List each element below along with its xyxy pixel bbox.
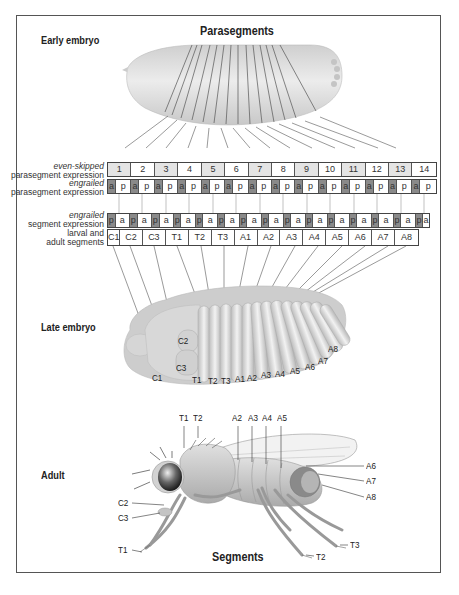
engrailed-segment-cell: p [372,214,380,227]
segment-cell: C1 [108,230,120,245]
engrailed-segment-cell: a [181,214,195,227]
parasegment-cell: 9 [295,163,318,176]
late-embryo-label-a2: A2 [247,373,257,383]
parasegment-cell: 8 [272,163,295,176]
segment-cell: T3 [212,230,235,245]
engrailed-segment-cell: p [218,214,226,227]
parasegment-cell: 12 [366,163,389,176]
engrailed-segment-cell: a [423,214,429,227]
adult-label-bottom-t2: T2 [316,552,325,562]
adult-label-top-a5: A5 [277,413,287,423]
engrailed-parasegment-cell: a [108,180,116,193]
en-segment-row-label: engrailedsegment expression [28,211,104,229]
engrailed-parasegment-cell: p [420,180,435,193]
late-embryo-label-t3: T3 [221,376,230,386]
diagram-artwork [0,0,459,595]
late-embryo-label-a3: A3 [261,370,271,380]
engrailed-segment-cell: a [291,214,305,227]
adult-label-bottom-t3: T3 [350,540,359,550]
engrailed-parasegment-cell: p [374,180,389,193]
late-embryo-label-a1: A1 [235,374,245,384]
engrailed-parasegment-cell: a [178,180,186,193]
engrailed-segment-cell: p [394,214,402,227]
engrailed-parasegment-cell: a [131,180,139,193]
late-embryo-label-t2: T2 [208,376,217,386]
engrailed-segment-row: papapapapapapapapapapapapapapa [107,213,430,228]
adult-label-right-a7: A7 [366,476,376,486]
engrailed-parasegment-cell: p [257,180,272,193]
parasegment-cell: 1 [108,163,131,176]
segment-cell: T2 [189,230,212,245]
engrailed-parasegment-row: apapapapapapapapapapapapapap [107,179,437,194]
late-embryo-label-a7: A7 [318,356,328,366]
engrailed-segment-cell: a [203,214,217,227]
parasegment-cell: 7 [249,163,272,176]
adult-label-top-a4: A4 [262,413,272,423]
parasegment-cell: 10 [319,163,342,176]
segment-cell: T1 [166,230,189,245]
parasegment-cell: 4 [178,163,201,176]
engrailed-segment-cell: p [196,214,204,227]
engrailed-segment-cell: a [247,214,261,227]
engrailed-parasegment-cell: a [202,180,210,193]
engrailed-parasegment-cell: a [366,180,374,193]
engrailed-parasegment-cell: a [155,180,163,193]
engrailed-parasegment-cell: p [210,180,225,193]
engrailed-segment-cell: p [108,214,116,227]
engrailed-segment-cell: a [379,214,393,227]
engrailed-segment-cell: p [350,214,358,227]
engrailed-segment-cell: p [284,214,292,227]
late-embryo-label-c2: C2 [178,336,188,346]
late-embryo-label-a4: A4 [275,369,285,379]
engrailed-parasegment-cell: a [295,180,303,193]
engrailed-segment-cell: p [152,214,160,227]
parasegment-cell: 13 [389,163,412,176]
register-lines [119,194,424,213]
engrailed-segment-cell: p [306,214,314,227]
engrailed-segment-cell: a [401,214,415,227]
adult-label-left-t1: T1 [118,545,127,555]
segment-cell: A4 [303,230,326,245]
engrailed-segment-cell: p [416,214,424,227]
segment-cell: A1 [235,230,258,245]
adult-label-right-a8: A8 [366,492,376,502]
segment-cell: C3 [143,230,166,245]
engrailed-segment-cell: a [357,214,371,227]
engrailed-segment-cell: a [160,214,174,227]
adult-label-top-a2: A2 [232,413,242,423]
late-embryo-illustration [124,286,352,384]
engrailed-segment-cell: a [335,214,349,227]
engrailed-segment-cell: a [225,214,239,227]
engrailed-segment-cell: p [240,214,248,227]
engrailed-segment-cell: p [328,214,336,227]
segment-cell: A3 [280,230,303,245]
adult-label-top-a3: A3 [248,413,258,423]
parasegment-cell: 5 [202,163,225,176]
late-embryo-label-t1: T1 [192,375,201,385]
engrailed-parasegment-cell: a [412,180,420,193]
engrailed-parasegment-cell: p [327,180,342,193]
engrailed-segment-cell: a [313,214,327,227]
segment-cell: A6 [349,230,372,245]
engrailed-segment-cell: a [116,214,130,227]
adult-label-top-t1: T1 [179,413,188,423]
parasegment-cell: 14 [412,163,435,176]
segment-cell: A2 [258,230,281,245]
engrailed-parasegment-cell: p [303,180,318,193]
parasegment-cell: 3 [155,163,178,176]
adult-label-left-c2: C2 [118,498,128,508]
early-embryo-illustration [122,45,342,125]
engrailed-parasegment-cell: p [163,180,178,193]
engrailed-parasegment-cell: a [225,180,233,193]
adult-label-left-c3: C3 [118,513,128,523]
engrailed-parasegment-cell: p [139,180,154,193]
adult-label-top-t2: T2 [193,413,202,423]
parasegment-cell: 2 [131,163,154,176]
even-skipped-row: 1234567891011121314 [107,162,437,177]
engrailed-parasegment-cell: p [350,180,365,193]
late-embryo-label-c3: C3 [176,363,186,373]
engrailed-parasegment-cell: a [319,180,327,193]
engrailed-parasegment-cell: a [389,180,397,193]
engrailed-parasegment-cell: a [342,180,350,193]
segment-cell: A7 [372,230,395,245]
